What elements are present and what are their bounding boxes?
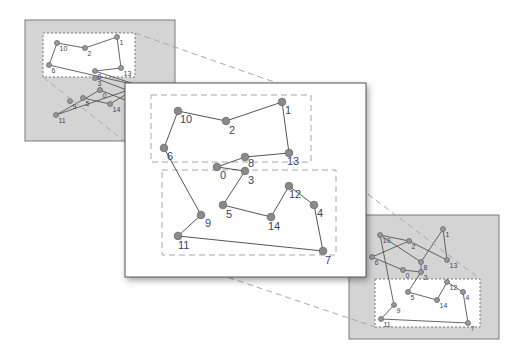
node-label: 14 [113,106,121,113]
node-label: 0 [103,92,107,99]
main-panel-background [125,83,366,277]
node-label: 14 [268,220,280,232]
node-marker [197,211,205,219]
node-label: 9 [73,103,77,110]
node-label: 9 [205,217,211,229]
node-label: 6 [167,150,173,162]
node-label: 12 [289,188,301,200]
node-label: 3 [424,274,428,281]
node-label: 1 [120,39,124,46]
node-label: 14 [440,302,448,309]
node-label: 9 [397,307,401,314]
node-label: 8 [98,73,102,80]
graph-zoom-diagram: 10211368034591411127 1021136803591114124… [0,0,521,357]
node-label: 2 [229,124,235,136]
node-label: 8 [248,157,254,169]
node-label: 0 [220,169,226,181]
main-zoomed-panel: 01234567891011121314 [125,83,366,277]
node-label: 3 [248,174,254,186]
node-label: 5 [86,100,90,107]
node-label: 4 [466,294,470,301]
node-label: 10 [383,237,391,244]
node-label: 7 [325,254,331,266]
node-label: 12 [450,284,458,291]
node-label: 13 [124,70,132,77]
node-label: 1 [446,231,450,238]
node-label: 13 [287,155,299,167]
node-label: 2 [88,50,92,57]
node-label: 6 [52,67,56,74]
node-label: 0 [406,272,410,279]
node-label: 10 [60,45,68,52]
node-label: 3 [98,80,102,87]
node-label: 2 [412,243,416,250]
node-label: 6 [375,259,379,266]
node-label: 5 [411,294,415,301]
node-label: 8 [424,264,428,271]
node-label: 11 [59,117,66,124]
node-label: 7 [471,325,475,332]
node-label: 5 [226,208,232,220]
node-label: 1 [285,104,291,116]
node-label: 4 [317,207,323,219]
node-label: 13 [450,262,458,269]
node-label: 11 [178,239,189,251]
node-label: 10 [180,113,192,125]
right-overview-panel: 10211368035911141247 [349,215,499,339]
node-label: 11 [384,321,391,328]
